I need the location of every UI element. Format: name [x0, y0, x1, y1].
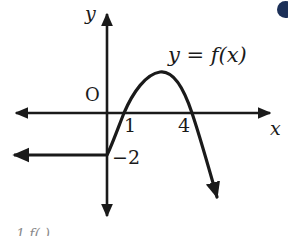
- function-label: y = f(x): [168, 45, 247, 66]
- x-tick-label-4: 4: [178, 116, 190, 135]
- clipped-caption-text: 1 f( ): [16, 226, 276, 236]
- y-axis-label: y: [85, 4, 96, 23]
- graph-figure: y x O 1 4 −2 y = f(x) 1 f( ): [0, 0, 288, 236]
- y-tick-label-negative-2: −2: [112, 148, 140, 167]
- x-axis-label: x: [270, 119, 281, 138]
- origin-label: O: [85, 86, 100, 104]
- corner-badge-icon: [277, 1, 288, 18]
- graph-canvas: [0, 0, 288, 236]
- x-tick-label-1: 1: [124, 116, 136, 135]
